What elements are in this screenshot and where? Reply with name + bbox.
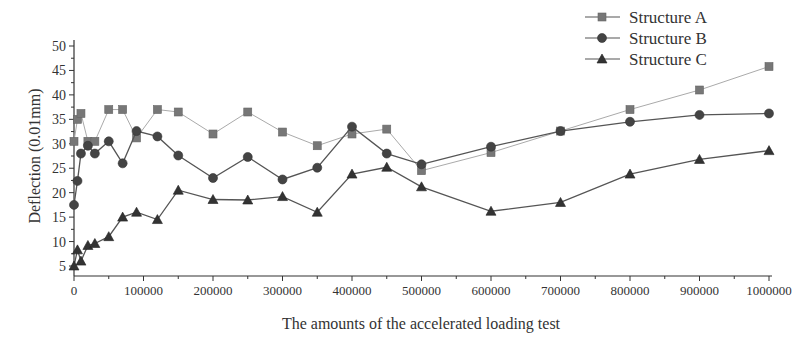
triangle-marker (173, 185, 183, 194)
circle-marker (76, 149, 85, 158)
triangle-marker (132, 207, 142, 216)
y-axis-label: Deflection (0.01mm) (26, 88, 44, 223)
legend-label: Structure A (629, 8, 708, 27)
circle-marker (626, 117, 635, 126)
triangle-marker (90, 239, 100, 248)
triangle-marker (417, 182, 427, 191)
circle-marker (90, 149, 99, 158)
square-marker (244, 108, 252, 116)
y-tick-label: 10 (52, 235, 66, 250)
x-tick-label: 300000 (263, 283, 302, 298)
square-marker (696, 86, 704, 94)
triangle-marker (76, 256, 86, 265)
y-tick-label: 45 (52, 63, 66, 78)
square-marker (119, 106, 127, 114)
triangle-marker (764, 146, 774, 155)
square-marker (313, 142, 321, 150)
x-tick-label: 500000 (402, 283, 441, 298)
triangle-marker (382, 162, 392, 171)
circle-marker (132, 127, 141, 136)
x-tick-label: 400000 (333, 283, 372, 298)
legend-label: Structure C (629, 50, 707, 69)
legend-item: Structure B (585, 29, 707, 48)
x-tick-label: 1000000 (746, 283, 792, 298)
circle-marker (153, 132, 162, 141)
x-tick-label: 600000 (472, 283, 511, 298)
triangle-marker (152, 215, 162, 224)
y-tick-label: 50 (52, 39, 66, 54)
x-tick-label: 800000 (611, 283, 650, 298)
circle-marker (417, 160, 426, 169)
x-tick-label: 700000 (541, 283, 580, 298)
triangle-marker (556, 197, 566, 206)
x-tick-label: 0 (71, 283, 78, 298)
y-tick-label: 25 (52, 161, 66, 176)
legend: Structure AStructure BStructure C (585, 8, 708, 69)
circle-marker (174, 151, 183, 160)
circle-marker (313, 163, 322, 172)
square-marker (209, 130, 217, 138)
y-tick-label: 15 (52, 210, 66, 225)
circle-marker (348, 122, 357, 131)
y-tick-label: 35 (52, 112, 66, 127)
legend-item: Structure A (585, 8, 708, 27)
triangle-marker (118, 212, 128, 221)
x-tick-label: 200000 (194, 283, 233, 298)
circle-marker (487, 142, 496, 151)
triangle-marker (104, 232, 114, 241)
line-chart: 5101520253035404550010000020000030000040… (0, 0, 811, 346)
x-axis-label: The amounts of the accelerated loading t… (282, 315, 561, 333)
square-marker (70, 137, 78, 145)
circle-marker (104, 137, 113, 146)
square-marker (279, 128, 287, 136)
y-tick-label: 30 (52, 137, 66, 152)
legend-item: Structure C (585, 50, 707, 69)
legend-label: Structure B (629, 29, 707, 48)
circle-marker (382, 149, 391, 158)
circle-marker (73, 176, 82, 185)
circle-marker (556, 127, 565, 136)
circle-marker (118, 159, 127, 168)
circle-marker (83, 141, 92, 150)
circle-marker (765, 109, 774, 118)
x-tick-label: 100000 (124, 283, 163, 298)
plot-series (69, 63, 774, 270)
triangle-marker (278, 192, 288, 201)
y-tick-label: 40 (52, 88, 66, 103)
x-tick-label: 900000 (680, 283, 719, 298)
square-marker (105, 106, 113, 114)
square-marker (626, 106, 634, 114)
y-tick-label: 5 (59, 259, 66, 274)
legend-circle-marker (598, 34, 607, 43)
y-tick-label: 20 (52, 186, 66, 201)
square-marker (383, 125, 391, 133)
circle-marker (695, 110, 704, 119)
circle-marker (70, 200, 79, 209)
square-marker (153, 106, 161, 114)
square-marker (174, 108, 182, 116)
circle-marker (209, 174, 218, 183)
legend-square-marker (598, 13, 606, 21)
square-marker (765, 63, 773, 71)
square-marker (77, 109, 85, 117)
circle-marker (243, 152, 252, 161)
circle-marker (278, 175, 287, 184)
